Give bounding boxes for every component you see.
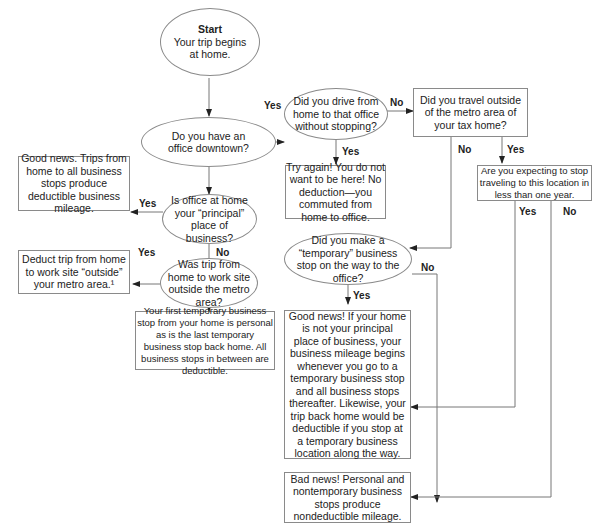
label-no-temporary: No: [421, 262, 434, 273]
result-good-news-home: Good news! If your home is not your prin…: [284, 310, 411, 459]
label-no-travel: No: [458, 144, 471, 155]
label-yes-trip-outside: Yes: [138, 247, 155, 258]
start-title: Start: [172, 23, 248, 36]
result-deduct-trip: Deduct trip from home to work site “outs…: [18, 250, 130, 294]
label-no-expecting: No: [563, 206, 576, 217]
label-no-principal: No: [216, 247, 229, 258]
label-yes-principal: Yes: [139, 198, 156, 209]
label-no-drive: No: [390, 97, 403, 108]
question-temporary-stop: Did you make a “temporary” business stop…: [284, 233, 412, 285]
result-bad-news: Bad news! Personal and nontemporary busi…: [284, 472, 411, 523]
question-drive-without-stopping: Did you drive from home to that office w…: [284, 88, 388, 140]
label-yes-expecting: Yes: [519, 206, 536, 217]
label-yes-drive: Yes: [342, 146, 359, 157]
question-office-home-principal: Is office at home your “principal” place…: [162, 194, 257, 244]
label-yes-downtown: Yes: [264, 100, 281, 111]
start-node: Start Your trip begins at home.: [160, 8, 260, 76]
question-trip-outside-metro: Was trip from home to work site outside …: [160, 258, 258, 308]
question-expecting-stop: Are you expecting to stop traveling to t…: [477, 165, 592, 201]
question-travel-outside-metro: Did you travel outside of the metro area…: [413, 88, 528, 137]
start-text: Your trip begins at home.: [172, 36, 248, 61]
question-office-downtown: Do you have an office downtown?: [141, 117, 276, 167]
result-first-temporary-stop: Your first temporary business stop from …: [135, 311, 275, 370]
result-try-again: Try again! You do not want to be here! N…: [285, 165, 386, 219]
label-yes-travel: Yes: [507, 144, 524, 155]
label-yes-temporary: Yes: [353, 290, 370, 301]
result-good-news-trips: Good news. Trips from home to all busine…: [18, 156, 130, 211]
